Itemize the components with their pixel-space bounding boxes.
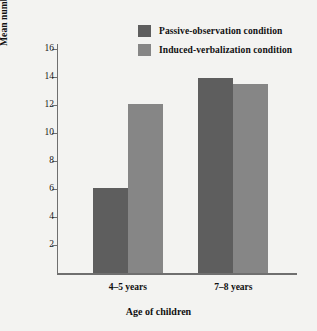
x-tick-label: 7–8 years: [183, 282, 283, 292]
x-axis-line: [57, 273, 297, 275]
legend-swatch-passive-observation: [138, 25, 151, 37]
legend-label-passive-observation: Passive-observation condition: [159, 26, 283, 36]
bar: [128, 104, 163, 273]
plot-area: 246810121416: [57, 44, 297, 274]
y-tick-label: 10: [45, 127, 55, 138]
y-axis-title: Mean number of responses correctly repro…: [0, 0, 9, 46]
y-tick-label: 2: [49, 239, 54, 250]
y-tick-label: 12: [45, 99, 55, 110]
y-tick-label: 6: [49, 183, 54, 194]
x-axis-title: Age of children: [0, 306, 317, 317]
x-tick-label: 4–5 years: [78, 282, 178, 292]
bar-chart-figure: Passive-observation condition Induced-ve…: [0, 0, 317, 331]
y-tick-label: 16: [45, 43, 55, 54]
legend-item-passive-observation: Passive-observation condition: [138, 25, 292, 37]
bar: [93, 188, 128, 273]
y-axis-line: [57, 44, 58, 274]
y-tick-label: 8: [49, 155, 54, 166]
bar: [233, 84, 268, 273]
bar: [198, 78, 233, 273]
y-tick-label: 14: [45, 71, 55, 82]
y-tick-label: 4: [49, 211, 54, 222]
